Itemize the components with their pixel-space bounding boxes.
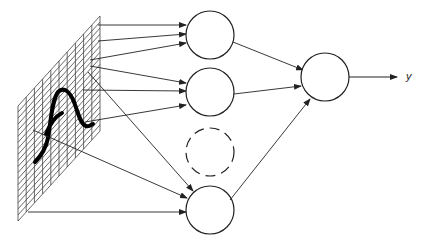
input-grid (18, 16, 100, 221)
neural-network-diagram (0, 0, 427, 244)
hidden-to-output-connections (230, 42, 310, 200)
hidden-neuron-h2 (186, 68, 234, 116)
output-neuron (301, 53, 349, 101)
hidden-neuron-h4 (186, 186, 234, 234)
input-arrow-h1 (90, 43, 186, 60)
hidden-neuron-h3 (186, 128, 234, 176)
hidden-neuron-h1 (186, 11, 234, 59)
input-arrow-h4 (88, 72, 193, 191)
output-node (301, 53, 349, 101)
input-arrow-h4 (33, 130, 187, 198)
output-label-y: y (406, 70, 412, 82)
input-arrow-h2 (90, 66, 186, 83)
output-connection-h2 (234, 86, 301, 94)
input-arrow-h1 (98, 34, 186, 41)
output-connection-h1 (233, 42, 303, 70)
output-connection-h4 (230, 99, 310, 200)
hidden-layer (186, 11, 234, 234)
